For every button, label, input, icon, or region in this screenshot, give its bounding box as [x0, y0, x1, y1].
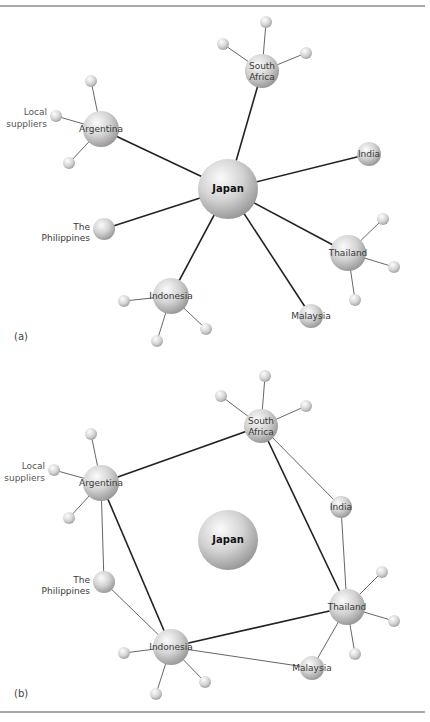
local-supplier-node	[377, 213, 389, 225]
label-argentina: Argentina	[79, 478, 123, 488]
panel-b-network: LocalsuppliersJapanSouthAfricaArgentinaI…	[4, 370, 400, 700]
label-south_africa: SouthAfrica	[248, 416, 274, 437]
local-supplier-node	[151, 335, 163, 347]
label-thailand: Thailand	[327, 602, 367, 612]
supplier-network-diagram: LocalsuppliersJapanSouthAfricaArgentinaI…	[0, 0, 430, 722]
label-argentina: Argentina	[79, 124, 123, 134]
label-india: India	[330, 502, 352, 512]
local-supplier-node	[63, 157, 75, 169]
local-supplier-node	[199, 676, 211, 688]
link-south_africa-thailand	[261, 426, 347, 607]
link-argentina-south_africa	[101, 426, 261, 483]
local-supplier-node	[300, 400, 312, 412]
local-supplier-node	[118, 647, 130, 659]
label-malaysia: Malaysia	[291, 311, 330, 321]
label-indonesia: Indonesia	[149, 291, 193, 301]
local-supplier-node	[85, 75, 97, 87]
link-indonesia-argentina	[101, 483, 171, 647]
local-supplier-node	[300, 47, 312, 59]
local-supplier-node	[388, 261, 400, 273]
local-supplier-node	[118, 295, 130, 307]
label-japan: Japan	[211, 534, 244, 545]
node-philippines	[93, 571, 115, 593]
label-malaysia: Malaysia	[292, 663, 331, 673]
label-thailand: Thailand	[328, 248, 368, 258]
label-indonesia: Indonesia	[149, 642, 193, 652]
link-south_africa-india	[261, 426, 341, 507]
local-supplier-node	[260, 16, 272, 28]
panel-label-b: (b)	[14, 688, 28, 699]
label-philippines: ThePhilippines	[42, 222, 91, 243]
panel-a-hub-and-spoke: LocalsuppliersJapanSouthAfricaArgentinaI…	[6, 16, 400, 347]
local-supplier-node	[85, 428, 97, 440]
local-supplier-node	[259, 370, 271, 382]
local-supplier-node	[388, 615, 400, 627]
local-supplier-node	[217, 38, 229, 50]
local-supplier-node	[349, 294, 361, 306]
local-supplier-node	[349, 648, 361, 660]
label-philippines: ThePhilippines	[42, 575, 91, 596]
local-supplier-node	[150, 688, 162, 700]
link-thailand-indonesia	[171, 607, 347, 647]
label-japan: Japan	[211, 183, 244, 194]
label-south_africa: SouthAfrica	[249, 61, 275, 82]
local-supplier-node	[48, 464, 60, 476]
local-suppliers-label: Localsuppliers	[6, 107, 47, 129]
label-india: India	[358, 149, 380, 159]
local-supplier-node	[215, 390, 227, 402]
local-supplier-node	[200, 323, 212, 335]
node-philippines	[93, 218, 115, 240]
local-supplier-node	[376, 566, 388, 578]
local-supplier-node	[50, 110, 62, 122]
panel-label-a: (a)	[14, 331, 28, 342]
local-supplier-node	[63, 512, 75, 524]
local-suppliers-label: Localsuppliers	[4, 461, 45, 483]
